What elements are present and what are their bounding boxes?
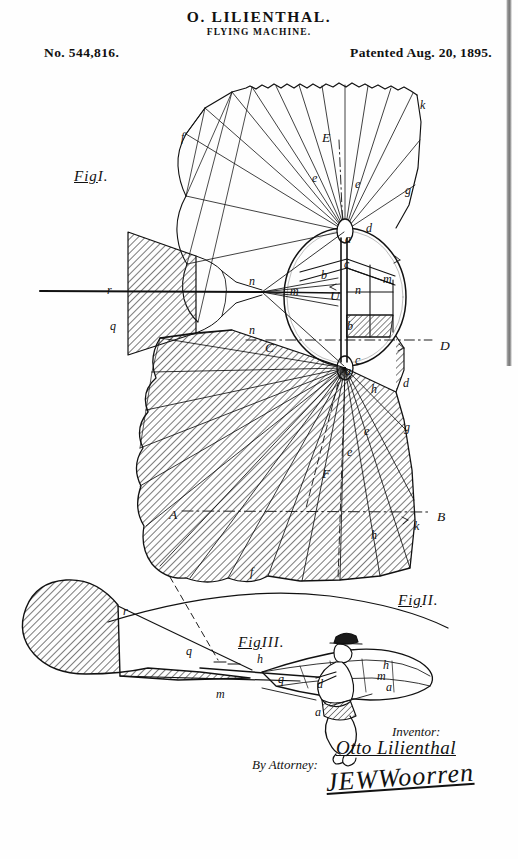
- ref-letter-m-right: m: [383, 273, 392, 285]
- ref-letter-q-fig3b: q: [278, 673, 284, 685]
- ref-letter-U-inner: U: [330, 289, 340, 303]
- ref-letter-h-lower: h: [371, 383, 377, 395]
- ref-letter-b-lower: b: [347, 320, 353, 332]
- fig3-glider: [22, 580, 330, 681]
- ref-letter-F-lower: F: [322, 467, 330, 481]
- ref-letter-m-left: m: [290, 285, 299, 297]
- ref-letter-e-lower-b: e: [347, 446, 352, 458]
- ref-letter-a-man-rear: a: [386, 681, 392, 693]
- fig2-caption-label: Fig: [398, 592, 422, 608]
- ref-letter-k-upper: k: [420, 99, 425, 111]
- ref-letter-a-hub-upper: a: [345, 233, 351, 245]
- fig1-caption: FigI.: [74, 168, 109, 185]
- inventor-signature: Otto Lilienthal: [336, 737, 456, 759]
- ref-letter-n-left: n: [249, 275, 255, 287]
- ref-letter-D-axis: D: [440, 339, 450, 353]
- fig3-caption-label: Fig: [238, 634, 262, 650]
- fig3-caption-numeral: III.: [262, 634, 285, 650]
- ref-letter-A-axis: A: [169, 508, 177, 522]
- ref-letter-n-lower: n: [249, 324, 255, 336]
- ref-letter-g-upper: g: [405, 184, 411, 196]
- scan-edge-artifact: [506, 0, 512, 366]
- ref-letter-e-right: e: [355, 178, 360, 190]
- ref-letter-k-lower: k: [414, 520, 419, 532]
- ref-letter-C-axis: C: [265, 341, 274, 355]
- fig1-upper-ribs: [186, 85, 420, 264]
- ref-letter-q-axis: q: [110, 320, 116, 332]
- ref-letter-d-man: d: [317, 678, 323, 690]
- ref-letter-r-axis: r: [107, 284, 112, 296]
- ref-letter-d-upper: d: [366, 222, 372, 234]
- ref-letter-r-fig3: r: [123, 605, 128, 617]
- fig2-caption: FigII.: [398, 592, 439, 609]
- ref-letter-a-man-front: a: [315, 706, 321, 718]
- ref-letter-c-upper: c: [344, 258, 349, 270]
- ref-letter-m-fig3: m: [216, 688, 225, 700]
- attorney-label: By Attorney:: [252, 757, 318, 773]
- ref-letter-n-inner: n: [355, 284, 361, 296]
- ref-letter-e-left: e: [312, 172, 317, 184]
- ref-letter-h-bottom: h: [371, 529, 377, 541]
- fig2-caption-numeral: II.: [422, 592, 439, 608]
- ref-letter-m-man: m: [377, 670, 386, 682]
- fig1-caption-numeral: I.: [98, 168, 109, 184]
- ref-letter-f-bottom: f: [250, 566, 253, 578]
- ref-letter-E-axis: E: [322, 131, 330, 145]
- ref-letter-f-upper: f: [181, 131, 184, 143]
- ref-letter-b-upper: b: [321, 269, 327, 281]
- ref-letter-g-lower: g: [404, 421, 410, 433]
- ref-letter-B-axis: B: [437, 510, 445, 524]
- ref-letter-q-fig3: q: [186, 645, 192, 657]
- fig3-caption: FigIII.: [238, 634, 285, 651]
- ref-letter-h-fig3: h: [257, 653, 263, 665]
- ref-letter-a-hub-lower: a: [345, 365, 351, 377]
- ref-letter-c-lower: c: [355, 354, 360, 366]
- ref-letter-e-lower-a: e: [364, 425, 369, 437]
- fig1-caption-label: Fig: [74, 168, 98, 184]
- ref-letter-d-lower: d: [403, 377, 409, 389]
